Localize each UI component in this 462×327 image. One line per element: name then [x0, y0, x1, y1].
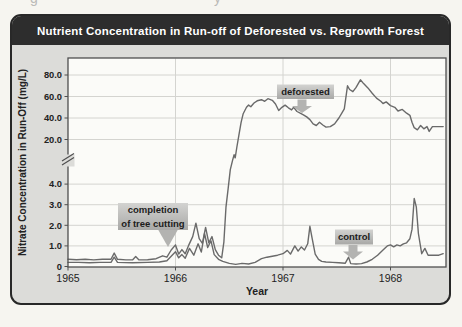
cropped-text-fragments: g y [0, 0, 462, 9]
cropped-glyph: g [30, 0, 38, 6]
chart-card: Nutrient Concentration in Run-off of Def… [10, 14, 451, 305]
cropped-glyph: y [214, 0, 221, 6]
page: g y Nutrient Concentration in Run-off of… [0, 0, 462, 327]
chart-title: Nutrient Concentration in Run-off of Def… [12, 16, 449, 45]
